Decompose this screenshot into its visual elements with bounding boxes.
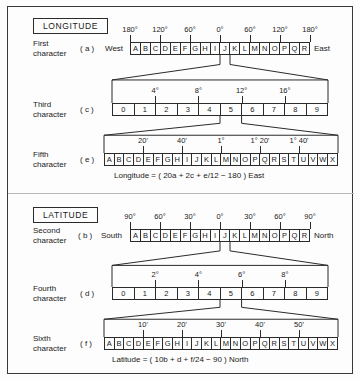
- character-cell[interactable]: D: [161, 230, 171, 241]
- character-cell[interactable]: F: [154, 154, 164, 165]
- character-cell[interactable]: E: [171, 230, 181, 241]
- character-cell[interactable]: A: [105, 338, 115, 349]
- character-cell[interactable]: H: [201, 43, 211, 54]
- character-cell[interactable]: V: [309, 154, 319, 165]
- character-cell[interactable]: U: [299, 154, 309, 165]
- character-cell[interactable]: 6: [242, 104, 264, 115]
- character-cell[interactable]: Q: [290, 230, 300, 241]
- character-cell[interactable]: P: [251, 154, 261, 165]
- character-cell[interactable]: G: [191, 43, 201, 54]
- character-cell[interactable]: E: [144, 154, 154, 165]
- character-cell[interactable]: M: [250, 43, 260, 54]
- character-cell[interactable]: 1: [135, 288, 157, 299]
- character-cell[interactable]: J: [220, 43, 230, 54]
- character-cell[interactable]: N: [260, 230, 270, 241]
- longitude-third-character-strip[interactable]: 0123456789: [112, 103, 328, 116]
- longitude-fifth-character-strip[interactable]: ABCDEFGHIJKLMNOPQRSTUVWX: [104, 153, 338, 166]
- character-cell[interactable]: P: [280, 230, 290, 241]
- character-cell[interactable]: I: [211, 230, 221, 241]
- character-cell[interactable]: L: [240, 230, 250, 241]
- character-cell[interactable]: O: [270, 230, 280, 241]
- character-cell[interactable]: T: [289, 154, 299, 165]
- character-cell[interactable]: N: [231, 338, 241, 349]
- character-cell[interactable]: F: [181, 43, 191, 54]
- character-cell[interactable]: R: [270, 154, 280, 165]
- character-cell[interactable]: Q: [290, 43, 300, 54]
- character-cell[interactable]: N: [231, 154, 241, 165]
- character-cell[interactable]: B: [141, 43, 151, 54]
- character-cell[interactable]: T: [289, 338, 299, 349]
- character-cell[interactable]: B: [115, 154, 125, 165]
- character-cell[interactable]: 6: [242, 288, 264, 299]
- character-cell[interactable]: I: [211, 43, 221, 54]
- character-cell[interactable]: J: [220, 230, 230, 241]
- character-cell[interactable]: A: [105, 154, 115, 165]
- character-cell[interactable]: L: [240, 43, 250, 54]
- character-cell[interactable]: 5: [221, 288, 243, 299]
- character-cell[interactable]: M: [221, 338, 231, 349]
- character-cell[interactable]: R: [300, 43, 309, 54]
- character-cell[interactable]: V: [309, 338, 319, 349]
- character-cell[interactable]: 7: [264, 104, 286, 115]
- character-cell[interactable]: 0: [113, 288, 135, 299]
- character-cell[interactable]: N: [260, 43, 270, 54]
- character-cell[interactable]: S: [280, 338, 290, 349]
- character-cell[interactable]: X: [328, 338, 337, 349]
- character-cell[interactable]: 9: [307, 288, 328, 299]
- character-cell[interactable]: M: [250, 230, 260, 241]
- character-cell[interactable]: E: [171, 43, 181, 54]
- character-cell[interactable]: G: [163, 154, 173, 165]
- character-cell[interactable]: R: [270, 338, 280, 349]
- latitude-sixth-character-strip[interactable]: ABCDEFGHIJKLMNOPQRSTUVWX: [104, 337, 338, 350]
- character-cell[interactable]: J: [192, 338, 202, 349]
- character-cell[interactable]: 8: [285, 104, 307, 115]
- character-cell[interactable]: O: [241, 154, 251, 165]
- character-cell[interactable]: S: [280, 154, 290, 165]
- character-cell[interactable]: B: [115, 338, 125, 349]
- character-cell[interactable]: C: [151, 230, 161, 241]
- character-cell[interactable]: 9: [307, 104, 328, 115]
- character-cell[interactable]: O: [270, 43, 280, 54]
- character-cell[interactable]: I: [183, 338, 193, 349]
- character-cell[interactable]: X: [328, 154, 337, 165]
- character-cell[interactable]: F: [181, 230, 191, 241]
- character-cell[interactable]: 7: [264, 288, 286, 299]
- character-cell[interactable]: F: [154, 338, 164, 349]
- character-cell[interactable]: K: [230, 43, 240, 54]
- latitude-fourth-character-strip[interactable]: 0123456789: [112, 287, 328, 300]
- character-cell[interactable]: U: [299, 338, 309, 349]
- character-cell[interactable]: G: [191, 230, 201, 241]
- character-cell[interactable]: 4: [199, 104, 221, 115]
- character-cell[interactable]: 3: [178, 288, 200, 299]
- character-cell[interactable]: D: [134, 338, 144, 349]
- character-cell[interactable]: I: [183, 154, 193, 165]
- character-cell[interactable]: C: [151, 43, 161, 54]
- latitude-second-character-strip[interactable]: ABCDEFGHIJKLMNOPQR: [130, 229, 310, 242]
- character-cell[interactable]: A: [131, 43, 141, 54]
- character-cell[interactable]: Q: [260, 338, 270, 349]
- character-cell[interactable]: D: [161, 43, 171, 54]
- character-cell[interactable]: K: [202, 154, 212, 165]
- character-cell[interactable]: H: [173, 154, 183, 165]
- character-cell[interactable]: L: [212, 154, 222, 165]
- character-cell[interactable]: K: [202, 338, 212, 349]
- character-cell[interactable]: B: [141, 230, 151, 241]
- character-cell[interactable]: 1: [135, 104, 157, 115]
- character-cell[interactable]: M: [221, 154, 231, 165]
- character-cell[interactable]: Q: [260, 154, 270, 165]
- character-cell[interactable]: 2: [156, 288, 178, 299]
- character-cell[interactable]: P: [251, 338, 261, 349]
- character-cell[interactable]: J: [192, 154, 202, 165]
- character-cell[interactable]: 2: [156, 104, 178, 115]
- character-cell[interactable]: 5: [221, 104, 243, 115]
- character-cell[interactable]: G: [163, 338, 173, 349]
- character-cell[interactable]: K: [230, 230, 240, 241]
- character-cell[interactable]: L: [212, 338, 222, 349]
- character-cell[interactable]: H: [201, 230, 211, 241]
- longitude-first-character-strip[interactable]: ABCDEFGHIJKLMNOPQR: [130, 42, 310, 55]
- character-cell[interactable]: A: [131, 230, 141, 241]
- character-cell[interactable]: H: [173, 338, 183, 349]
- character-cell[interactable]: W: [318, 154, 328, 165]
- character-cell[interactable]: 4: [199, 288, 221, 299]
- character-cell[interactable]: P: [280, 43, 290, 54]
